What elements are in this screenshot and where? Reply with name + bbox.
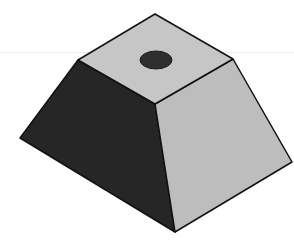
hole — [140, 51, 172, 69]
frustum-illustration — [0, 0, 294, 245]
frustum-drawing — [0, 0, 294, 245]
